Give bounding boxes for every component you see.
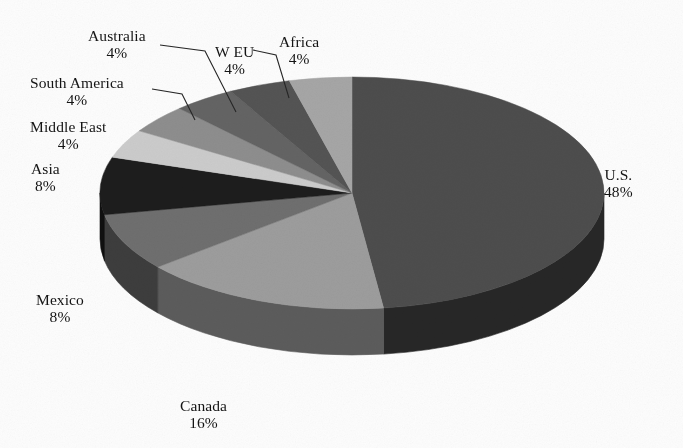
slice-label-south-america: South America 4% (30, 74, 124, 109)
slice-label-w-eu: W EU 4% (215, 43, 254, 78)
pie-chart-figure: South America 4% Australia 4% W EU 4% Af… (0, 0, 683, 448)
slice-label-us: U.S. 48% (604, 166, 633, 201)
slice-label-percent: 4% (88, 44, 146, 61)
slice-label-middle-east: Middle East 4% (30, 118, 106, 153)
slice-label-name: Middle East (30, 118, 106, 135)
slice-label-mexico: Mexico 8% (36, 291, 84, 326)
slice-label-name: Africa (279, 33, 319, 50)
slice-label-name: U.S. (604, 166, 633, 183)
slice-label-percent: 4% (30, 135, 106, 152)
pie-chart-canvas (0, 0, 683, 448)
slice-label-name: South America (30, 74, 124, 91)
slice-label-name: Mexico (36, 291, 84, 308)
slice-label-australia: Australia 4% (88, 27, 146, 62)
slice-label-percent: 4% (279, 50, 319, 67)
slice-label-name: Australia (88, 27, 146, 44)
slice-label-percent: 4% (30, 91, 124, 108)
pie-slices (100, 77, 604, 309)
slice-label-africa: Africa 4% (279, 33, 319, 68)
slice-label-canada: Canada 16% (180, 397, 227, 432)
slice-label-percent: 8% (36, 308, 84, 325)
slice-label-percent: 8% (31, 177, 60, 194)
slice-label-percent: 4% (215, 60, 254, 77)
slice-label-percent: 16% (180, 414, 227, 431)
slice-label-name: W EU (215, 43, 254, 60)
slice-label-name: Canada (180, 397, 227, 414)
slice-label-asia: Asia 8% (31, 160, 60, 195)
slice-label-percent: 48% (604, 183, 633, 200)
slice-label-name: Asia (31, 160, 60, 177)
